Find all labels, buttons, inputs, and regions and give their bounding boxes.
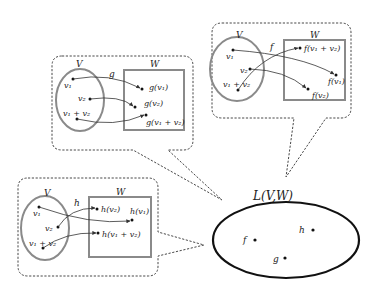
map-label-h: h	[74, 198, 80, 208]
map-label-g: g	[109, 69, 115, 79]
element-f-label: f	[242, 235, 248, 245]
main-set-ellipse	[213, 202, 359, 278]
image-g-v1: g(v₁)	[149, 83, 168, 92]
image-g-v1v2: g(v₁ + v₂)	[146, 118, 185, 127]
label-L-V-W: L(V,W)	[252, 189, 293, 203]
image-f-v1: f(v₁)	[327, 77, 345, 86]
image-g-v2: g(v₂)	[144, 99, 163, 108]
image-f-v1v2: f(v₁ + v₂)	[303, 44, 340, 53]
element-g-label: g	[273, 254, 279, 264]
image-h-v2: h(v₂)	[101, 205, 120, 214]
image-h-v1: h(v₁)	[130, 207, 149, 216]
point-v2-h: v₂	[45, 224, 53, 233]
linear-maps-diagram: V W g v₁ v₂ v₁ + v₂ g(v₁) g(v₂) g(v₁ + v…	[0, 0, 371, 296]
point-v1-g: v₁	[64, 81, 72, 90]
image-f-v2: f(v₂)	[311, 91, 329, 100]
element-h-label: h	[299, 225, 305, 235]
element-g-dot	[283, 256, 286, 259]
point-v1v2-f: v₁ + v₂	[223, 80, 250, 89]
label-W-h: W	[116, 187, 126, 197]
element-h-dot	[311, 228, 314, 231]
point-v1-h: v₁	[33, 209, 41, 218]
callout-h: V W h v₁ v₂ v₁ + v₂ h(v₂) h(v₁) h(v₁ + v…	[18, 178, 204, 276]
label-W-f: W	[310, 30, 320, 40]
point-v2-f: v₂	[240, 66, 248, 75]
label-W-g: W	[150, 59, 160, 69]
point-v2-g: v₂	[78, 94, 86, 103]
point-v1-f: v₁	[226, 52, 234, 61]
callout-f: V W f v₁ v₂ v₁ + v₂ f(v₁ + v₂) f(v₁) f(v…	[210, 23, 351, 177]
element-f-dot	[253, 238, 256, 241]
point-v1v2-h: v₁ + v₂	[29, 239, 56, 248]
set-L-V-W: L(V,W) f h g	[213, 189, 359, 278]
point-v1v2-g: v₁ + v₂	[63, 109, 90, 118]
image-h-v1v2: h(v₁ + v₂)	[102, 230, 141, 239]
